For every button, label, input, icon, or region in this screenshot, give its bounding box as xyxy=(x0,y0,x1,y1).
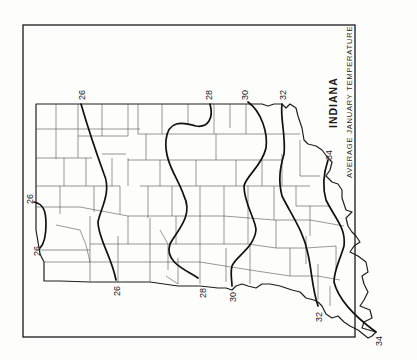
map-title: INDIANA xyxy=(327,77,339,128)
label-28-top: 28 xyxy=(204,90,214,100)
label-30-top: 30 xyxy=(240,90,250,100)
label-34-bottom: 34 xyxy=(374,336,384,346)
isotherm-28 xyxy=(166,104,211,278)
label-32-top: 32 xyxy=(278,90,288,100)
label-30-bottom: 30 xyxy=(228,292,238,302)
label-26-top: 26 xyxy=(77,90,87,100)
map-frame xyxy=(23,25,355,337)
state-outline xyxy=(36,104,376,338)
isotherm-34 xyxy=(324,160,376,332)
label-28-bottom: 28 xyxy=(198,288,208,298)
isotherm-30 xyxy=(231,102,266,286)
label-34-top: 34 xyxy=(324,150,334,160)
label-32-bottom: 32 xyxy=(314,312,324,322)
label-26-nw-bottom: 26 xyxy=(32,246,42,256)
isotherm-26 xyxy=(81,104,116,280)
label-26-nw-top: 26 xyxy=(25,194,35,204)
indiana-temperature-map: 26 26 26 26 28 28 30 30 32 32 34 34 INDI… xyxy=(0,0,417,360)
label-26-bottom: 26 xyxy=(112,286,122,296)
isotherm-32 xyxy=(280,104,318,306)
map-subtitle: AVERAGE JANUARY TEMPERATURE xyxy=(345,26,354,178)
county-boundaries xyxy=(36,104,344,306)
